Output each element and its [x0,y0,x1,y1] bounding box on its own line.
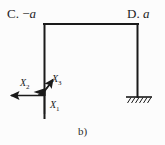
option-c-variable: a [30,6,37,21]
structural-frame-figure: C. −a D. a X2 X3 X1 b) [0,0,165,145]
option-c-text: C. − [7,6,30,21]
force-label-x3: X3 [52,74,62,87]
figure-caption: b) [0,126,165,137]
force-label-x2: X2 [20,78,30,91]
frame-diagram-svg [0,0,165,145]
option-d-variable: a [143,6,150,21]
fixed-support [126,97,152,103]
answer-option-c: C. −a [7,7,36,20]
force-subscript-x3: 3 [58,79,62,87]
force-subscript-x2: 2 [26,83,30,91]
force-label-x1: X1 [50,100,60,113]
option-d-text: D. [127,6,143,21]
force-subscript-x1: 1 [56,105,60,113]
answer-option-d: D. a [127,7,149,20]
support-hatching [128,98,152,104]
